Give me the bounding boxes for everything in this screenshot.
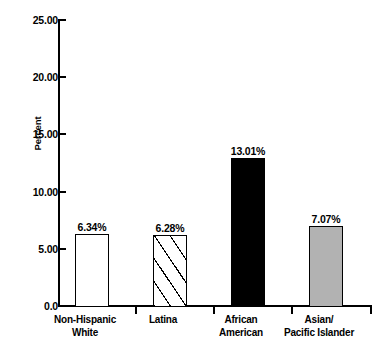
y-tick-label-10: 10.00 [12, 187, 58, 197]
bar-value-non-hispanic-white: 6.34% [52, 221, 132, 233]
x-category-label-asian-pacific-islander: Asian/ Pacific Islander [269, 314, 369, 339]
y-tick-25: 25.00 [0, 15, 58, 25]
category-line-2: White [35, 327, 135, 340]
y-tick-20: 20.00 [0, 72, 58, 82]
bar-asian-pacific-islander[interactable]: 7.07% [309, 226, 343, 307]
bar-african-american[interactable]: 13.01% [231, 158, 265, 307]
x-tick-2 [213, 307, 215, 314]
bar-group-non-hispanic-white: 6.34% [75, 20, 109, 307]
plot-area: 6.34% 6.28% 13.01% 7.07% [58, 20, 372, 307]
bar-chart: Percent 25.00 20.00 15.00 10.00 5.00 0.0… [0, 0, 379, 345]
bar-value-asian-pacific-islander: 7.07% [286, 213, 366, 225]
bar-value-african-american: 13.01% [208, 145, 288, 157]
y-tick-label-25: 25.00 [12, 15, 58, 25]
bar-value-latina: 6.28% [130, 222, 210, 234]
bar-non-hispanic-white[interactable]: 6.34% [75, 234, 109, 307]
x-tick-4 [370, 307, 372, 314]
y-tick-0: 0.0 [0, 301, 58, 311]
category-line-1: Asian/ [305, 314, 334, 325]
y-tick-label-5: 5.00 [12, 244, 58, 254]
category-line-1: African [224, 314, 257, 325]
y-tick-15: 15.00 [0, 129, 58, 139]
y-tick-label-20: 20.00 [12, 72, 58, 82]
category-line-2: Pacific Islander [269, 327, 369, 340]
bar-latina[interactable]: 6.28% [153, 235, 187, 307]
bar-group-african-american: 13.01% [231, 20, 265, 307]
y-tick-10: 10.00 [0, 187, 58, 197]
bar-group-latina: 6.28% [153, 20, 187, 307]
y-tick-label-15: 15.00 [12, 129, 58, 139]
y-tick-5: 5.00 [0, 244, 58, 254]
category-line-1: Non-Hispanic [54, 314, 116, 325]
y-tick-label-0: 0.0 [12, 301, 58, 311]
x-tick-1 [135, 307, 137, 314]
category-line-1: Latina [149, 314, 177, 325]
x-tick-3 [291, 307, 293, 314]
bar-group-asian-pacific-islander: 7.07% [309, 20, 343, 307]
